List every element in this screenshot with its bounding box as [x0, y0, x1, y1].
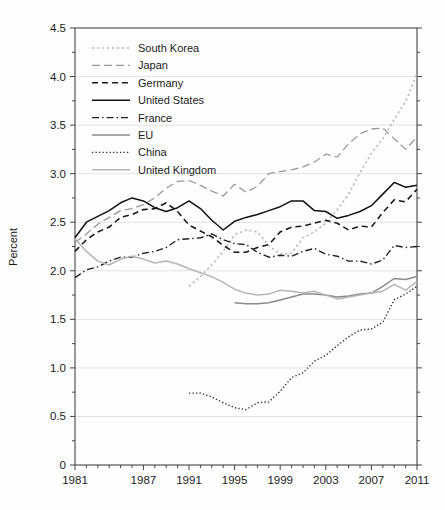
- series-line-eu: [235, 277, 417, 304]
- legend-label-germany: Germany: [138, 77, 184, 89]
- y-tick-label: 3.0: [50, 168, 66, 180]
- x-tick-label: 2007: [359, 474, 385, 486]
- y-tick-label: 4.5: [50, 22, 66, 34]
- y-tick-label: 0.5: [50, 410, 66, 422]
- legend-item-eu: EU: [92, 129, 153, 141]
- series-line-china: [189, 286, 417, 409]
- legend-label-eu: EU: [138, 129, 153, 141]
- x-tick-label: 1987: [131, 474, 157, 486]
- rd-intensity-line-chart: 00.51.01.52.02.53.03.54.04.5198119871991…: [0, 0, 445, 510]
- legend-label-south-korea: South Korea: [138, 42, 200, 54]
- x-tick-label: 2003: [313, 474, 339, 486]
- legend-label-france: France: [138, 112, 172, 124]
- gridlines: [75, 77, 417, 417]
- legend-item-united-states: United States: [92, 94, 205, 106]
- x-tick-label: 1991: [176, 474, 202, 486]
- data-series: [75, 74, 417, 410]
- legend-label-japan: Japan: [138, 59, 168, 71]
- y-axis-title: Percent: [7, 228, 19, 266]
- series-line-united-kingdom: [75, 239, 417, 299]
- y-tick-label: 2.0: [50, 265, 66, 277]
- x-tick-label: 1999: [267, 474, 293, 486]
- legend-item-japan: Japan: [92, 59, 168, 71]
- y-tick-label: 2.5: [50, 216, 66, 228]
- x-tick-label: 1995: [222, 474, 248, 486]
- legend-item-china: China: [92, 146, 168, 158]
- series-line-japan: [75, 128, 417, 243]
- y-tick-label: 1.0: [50, 362, 66, 374]
- plot-frame: [75, 28, 417, 465]
- legend-item-france: France: [92, 112, 172, 124]
- legend-item-germany: Germany: [92, 77, 184, 89]
- series-line-south-korea: [189, 74, 417, 287]
- legend-label-united-states: United States: [138, 94, 205, 106]
- y-tick-label: 0: [60, 459, 66, 471]
- legend-label-china: China: [138, 146, 168, 158]
- legend-label-united-kingdom: United Kingdom: [138, 164, 216, 176]
- y-tick-label: 3.5: [50, 119, 66, 131]
- legend-item-south-korea: South Korea: [92, 42, 200, 54]
- x-tick-label: 1981: [62, 474, 88, 486]
- y-tick-label: 4.0: [50, 71, 66, 83]
- series-line-germany: [75, 189, 417, 252]
- legend: South KoreaJapanGermanyUnited StatesFran…: [92, 42, 216, 176]
- x-tick-label: 2011: [405, 474, 430, 486]
- line-chart-figure: 00.51.01.52.02.53.03.54.04.5198119871991…: [0, 0, 445, 510]
- y-tick-label: 1.5: [50, 313, 66, 325]
